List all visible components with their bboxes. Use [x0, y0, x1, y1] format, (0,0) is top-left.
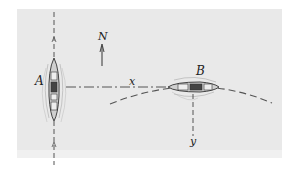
x-axis-label: x [129, 76, 135, 87]
diagram-canvas [0, 0, 296, 174]
ship-a-label: A [35, 75, 44, 87]
north-arrow-icon [100, 44, 104, 66]
north-label: N [98, 31, 108, 42]
ship-a-icon [42, 58, 66, 122]
ship-b-label: B [196, 65, 205, 77]
y-axis-label: y [190, 136, 196, 147]
